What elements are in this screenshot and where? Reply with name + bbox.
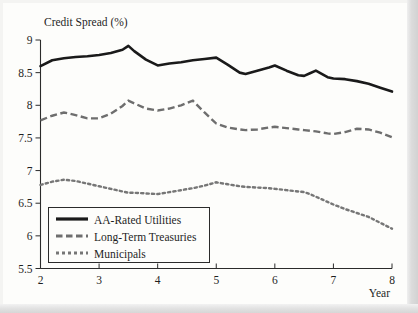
x-tick-label: 8 xyxy=(389,274,395,286)
x-axis-label: Year xyxy=(369,287,390,299)
y-tick-label: 7 xyxy=(27,165,33,177)
x-tick-label: 3 xyxy=(96,274,102,286)
chart-legend: AA-Rated Utilities Long-Term Treasuries … xyxy=(49,208,210,263)
legend-label-aa-rated-utilities: AA-Rated Utilities xyxy=(94,214,182,226)
figure-page: Credit Spread (%) 98.587.576.565.5 23456… xyxy=(0,0,418,313)
y-tick-label: 9 xyxy=(27,34,33,46)
y-tick-label: 6 xyxy=(27,230,33,242)
x-axis-ticks: 2345678 xyxy=(38,264,396,286)
series-line-long-term-treasuries xyxy=(41,101,393,138)
chart-title: Credit Spread (%) xyxy=(44,16,128,29)
y-tick-label: 8.5 xyxy=(18,67,33,79)
x-tick-label: 5 xyxy=(213,274,219,286)
x-tick-label: 4 xyxy=(155,274,161,286)
x-tick-label: 7 xyxy=(331,274,337,286)
y-axis-ticks: 98.587.576.565.5 xyxy=(18,34,40,275)
y-tick-label: 6.5 xyxy=(18,197,33,209)
credit-spread-line-chart: Credit Spread (%) 98.587.576.565.5 23456… xyxy=(0,0,418,313)
y-tick-label: 8 xyxy=(27,99,33,111)
x-tick-label: 2 xyxy=(38,274,44,286)
x-tick-label: 6 xyxy=(272,274,278,286)
series-line-aa-rated-utilities xyxy=(41,46,393,92)
legend-label-municipals: Municipals xyxy=(94,248,146,261)
y-tick-label: 7.5 xyxy=(18,132,33,144)
legend-label-long-term-treasuries: Long-Term Treasuries xyxy=(94,231,197,244)
y-tick-label: 5.5 xyxy=(18,263,33,275)
